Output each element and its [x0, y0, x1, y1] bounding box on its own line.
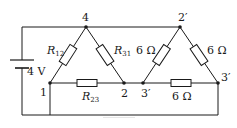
circuit-drawing	[0, 0, 237, 128]
resistor-R31	[96, 44, 114, 65]
node-label-1: 1	[40, 87, 47, 98]
r31-subscript: 31	[122, 50, 131, 58]
resistor-label-6ohm-right: 6 Ω	[207, 45, 227, 56]
node-3pr-dot	[216, 81, 220, 85]
resistor-label-6ohm-left: 6 Ω	[136, 45, 156, 56]
node-1-dot	[48, 81, 52, 85]
caption-fragment	[103, 117, 135, 118]
node-2p-dot	[178, 25, 182, 29]
r23-subscript: 23	[90, 96, 99, 104]
resistor-label-R31: R31	[114, 45, 131, 58]
node-label-3p-left: 3′	[141, 88, 151, 99]
resistor-label-R12: R12	[47, 45, 64, 58]
r12-subscript: 12	[55, 50, 64, 58]
node-label-2: 2	[121, 88, 128, 99]
node-label-3p-right: 3′	[221, 72, 231, 83]
resistor-label-R23: R23	[82, 91, 99, 104]
resistor-2p-3pr	[190, 44, 208, 65]
node-3pl-dot	[141, 81, 145, 85]
resistor-R23	[77, 80, 97, 87]
node-4-dot	[84, 25, 88, 29]
voltage-label: 4 V	[27, 66, 45, 77]
node-2-dot	[122, 81, 126, 85]
node-label-2p: 2′	[178, 12, 188, 23]
resistor-label-6ohm-bottom: 6 Ω	[172, 91, 192, 102]
resistor-3p-3p	[171, 80, 191, 87]
node-label-4: 4	[82, 12, 89, 23]
circuit-diagram: 4 2′ 1 2 3′ 3′ 4 V R12 R31 R23 6 Ω 6 Ω 6…	[0, 0, 237, 128]
